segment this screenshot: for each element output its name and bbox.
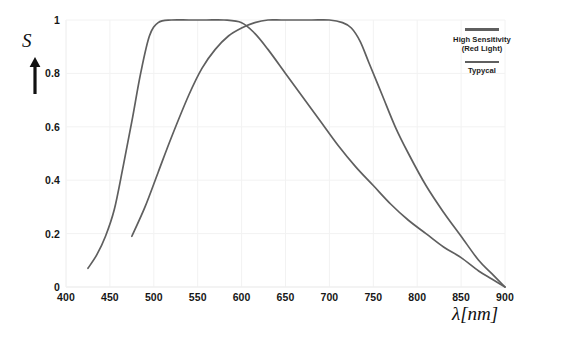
legend-entry-high-sensitivity: High Sensitivity (Red Light) — [420, 28, 544, 54]
x-tick-label: 600 — [233, 291, 251, 303]
legend-swatch-high-sensitivity — [465, 28, 499, 31]
legend-swatch-typycal — [465, 61, 499, 63]
x-tick-label: 800 — [408, 291, 426, 303]
x-tick-label: 650 — [277, 291, 295, 303]
legend-label-high-sensitivity: High Sensitivity (Red Light) — [420, 35, 544, 55]
spectral-sensitivity-chart: 00.20.40.60.81 4004505005506006507007508… — [0, 0, 573, 345]
x-tick-label: 500 — [145, 291, 163, 303]
x-tick-label: 400 — [57, 291, 75, 303]
y-axis-arrow-icon — [27, 56, 43, 96]
x-tick-label: 550 — [189, 291, 207, 303]
x-tick-label: 900 — [496, 291, 514, 303]
x-tick-label: 750 — [364, 291, 382, 303]
chart-legend: High Sensitivity (Red Light) Typycal — [420, 28, 544, 76]
legend-label-line2: (Red Light) — [420, 44, 544, 54]
y-axis-title: S — [22, 30, 32, 52]
legend-label-typycal: Typycal — [420, 66, 544, 76]
x-tick-label: 450 — [101, 291, 119, 303]
legend-entry-typycal: Typycal — [420, 61, 544, 76]
legend-label-line1: High Sensitivity — [420, 35, 544, 45]
x-tick-label: 700 — [320, 291, 338, 303]
x-axis-title: λ[nm] — [452, 303, 498, 325]
x-tick-label: 850 — [452, 291, 470, 303]
